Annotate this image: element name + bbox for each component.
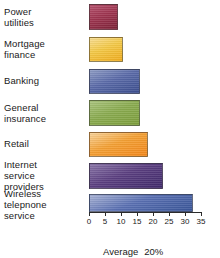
chart-row: General insurance [0, 100, 220, 126]
category-label-line: General [4, 102, 84, 113]
category-label: Mortgage finance [4, 38, 84, 60]
category-label-line: Retail [4, 138, 84, 149]
chart-row: Mortgage finance [0, 37, 220, 62]
bar-chart: Power utilities Mortgage finance Banking [0, 0, 220, 258]
category-label: General insurance [4, 102, 84, 124]
x-axis-tick [185, 212, 186, 216]
x-axis-tick [89, 212, 90, 216]
chart-row: Retail [0, 132, 220, 157]
bar-power-utilities [89, 4, 118, 30]
x-axis-tick [105, 212, 106, 216]
category-label: Wireless telepnone service [4, 188, 84, 221]
chart-row: Wireless telepnone service [0, 194, 220, 212]
category-label-line: Wireless [4, 188, 84, 199]
bar-mortgage-finance [89, 37, 123, 62]
chart-plot-area: Power utilities Mortgage finance Banking [0, 0, 220, 212]
bar-wireless-telephone-service [89, 194, 193, 212]
x-axis-tick [137, 212, 138, 216]
chart-row: Internet service providers [0, 163, 220, 189]
bar-internet-service-providers [89, 163, 163, 189]
x-axis-tick-label: 35 [190, 217, 212, 227]
category-label-line: Banking [4, 75, 84, 86]
bar-banking [89, 69, 140, 94]
x-axis-tick [153, 212, 154, 216]
average-annotation: Average20% [93, 235, 163, 258]
x-axis-tick [201, 212, 202, 216]
category-label-line: insurance [4, 113, 84, 124]
average-annotation-value: 20% [144, 246, 163, 257]
average-annotation-label: Average [103, 246, 138, 257]
category-label-line: service [4, 210, 84, 221]
category-label-line: Internet [4, 159, 84, 170]
category-label-line: Power [4, 6, 84, 17]
category-label-line: finance [4, 49, 84, 60]
category-label-line: telepnone [4, 199, 84, 210]
chart-row: Banking [0, 69, 220, 94]
x-axis-tick [169, 212, 170, 216]
bar-general-insurance [89, 100, 140, 126]
category-label-line: Mortgage [4, 38, 84, 49]
x-axis-tick [121, 212, 122, 216]
bar-retail [89, 132, 148, 157]
category-label-line: service [4, 170, 84, 181]
category-label: Retail [4, 138, 84, 149]
category-label: Power utilities [4, 6, 84, 28]
category-label-line: utilities [4, 17, 84, 28]
category-label: Banking [4, 75, 84, 86]
chart-row: Power utilities [0, 4, 220, 30]
